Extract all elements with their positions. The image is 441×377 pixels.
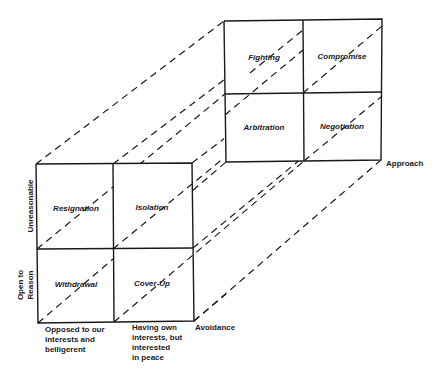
- cell-isolation: Isolation: [136, 203, 169, 212]
- cell-compromise: Compromise: [318, 52, 367, 61]
- front-face-grid: [36, 163, 194, 323]
- x-label-right: Having own interests, but interested in …: [132, 323, 183, 362]
- svg-text:belligerent: belligerent: [45, 345, 86, 354]
- cell-negotiation: Negotiation: [320, 122, 364, 131]
- svg-text:interested: interested: [132, 343, 170, 352]
- depth-label-approach: Approach: [386, 159, 423, 168]
- svg-text:Having own: Having own: [132, 323, 177, 332]
- svg-text:interests and: interests and: [45, 335, 95, 344]
- x-label-left: Opposed to our interests and belligerent: [45, 325, 105, 354]
- cell-resignation: Resignation: [53, 204, 99, 213]
- y-label-open-to: Open to: [16, 270, 25, 300]
- cell-arbitration: Arbitration: [243, 123, 285, 132]
- svg-text:in peace: in peace: [132, 353, 165, 362]
- cell-cover-up: Cover-Up: [134, 279, 170, 288]
- svg-text:Opposed to our: Opposed to our: [45, 325, 105, 334]
- cell-withdrawal: Withdrawal: [55, 280, 98, 289]
- depth-label-avoidance: Avoidance: [195, 323, 236, 332]
- conflict-cube-diagram: Fighting Compromise Arbitration Negotiat…: [0, 0, 441, 377]
- back-face-grid: [224, 19, 382, 162]
- svg-text:interests, but: interests, but: [132, 333, 183, 342]
- cell-fighting: Fighting: [248, 53, 280, 62]
- y-label-reason: Reason: [26, 270, 35, 299]
- y-label-unreasonable: Unreasonable: [26, 179, 35, 232]
